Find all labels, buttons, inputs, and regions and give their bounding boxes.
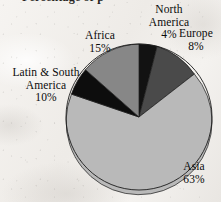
pie-label-north-america-line1: North — [155, 3, 182, 15]
pie-label-africa-value: 15% — [74, 42, 126, 55]
pie-label-asia-line1: Asia — [183, 160, 204, 172]
pie-label-europe-line1: Europe — [179, 27, 213, 39]
pie-chart-figure: Percentage of p North America 4% Europe … — [0, 0, 221, 202]
pie-label-north-america-line2: America — [149, 16, 189, 28]
pie-label-europe-value: 8% — [172, 40, 220, 53]
pie-label-asia: Asia 63% — [170, 160, 218, 185]
chart-plot-area: North America 4% Europe 8% Asia 63% Lati… — [0, 0, 221, 202]
pie-label-latin-south-america-line1: Latin & South — [12, 66, 79, 78]
pie-label-europe: Europe 8% — [172, 27, 220, 52]
pie-label-latin-south-america: Latin & South America 10% — [2, 66, 90, 104]
pie-label-latin-south-america-line2: America — [26, 79, 66, 91]
pie-label-asia-value: 63% — [170, 173, 218, 186]
pie-label-africa-line1: Africa — [85, 29, 115, 41]
pie-label-africa: Africa 15% — [74, 29, 126, 54]
pie-label-latin-south-america-value: 10% — [2, 91, 90, 104]
